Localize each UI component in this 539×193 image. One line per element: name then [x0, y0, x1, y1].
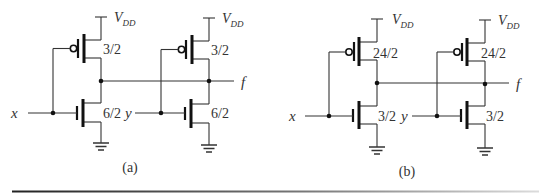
junction-dot [159, 111, 164, 116]
output-node-dot [375, 81, 380, 86]
input-y-label: y [123, 105, 132, 121]
input-x-label: x [10, 105, 18, 121]
nmos-size-label: 3/2 [486, 109, 504, 124]
nmos-transistor-icon [353, 101, 377, 129]
junction-dot [327, 114, 332, 119]
pmos-size-label: 3/2 [211, 43, 229, 58]
junction-dot [435, 114, 440, 119]
ground-icon [93, 143, 109, 150]
nmos-transistor-icon [185, 99, 209, 128]
vdd-supply-icon [95, 17, 107, 40]
vdd-supply-icon [203, 18, 215, 41]
panel-b: VDD 24/2 3/2 [288, 12, 522, 180]
pmos-size-label: 24/2 [481, 46, 506, 61]
nmos-size-label: 3/2 [378, 109, 396, 124]
nmos-transistor-icon [77, 99, 101, 127]
output-node-dot [207, 79, 212, 84]
cmos-circuit-figure: VDD 3/2 6/2 [0, 0, 539, 193]
inverter-y-b: VDD 24/2 3/2 [399, 13, 520, 155]
vdd-supply-icon [479, 20, 491, 43]
pmos-transistor-icon [437, 38, 485, 66]
input-y-label: y [399, 108, 408, 124]
ground-icon [477, 148, 493, 155]
nmos-size-label: 6/2 [103, 106, 121, 121]
pmos-transistor-icon [161, 35, 209, 64]
nmos-size-label: 6/2 [211, 106, 229, 121]
ground-icon [369, 147, 385, 154]
pmos-transistor-icon [329, 37, 377, 66]
output-node-dot [483, 82, 488, 87]
inverter-x-a: VDD 3/2 6/2 [10, 10, 136, 150]
nmos-transistor-icon [461, 101, 485, 129]
panel-a: VDD 3/2 6/2 [10, 10, 247, 176]
junction-dot [51, 111, 56, 116]
pmos-transistor-icon [53, 34, 101, 63]
vdd-supply-icon [371, 19, 383, 42]
pmos-size-label: 3/2 [103, 42, 121, 57]
vdd-label: VDD [114, 10, 136, 28]
output-f-label: f [516, 76, 522, 92]
ground-icon [201, 145, 217, 152]
panel-a-caption: (a) [122, 160, 138, 176]
output-node-dot [99, 79, 104, 84]
panel-b-caption: (b) [399, 164, 416, 180]
vdd-label: VDD [498, 13, 520, 31]
vdd-label: VDD [222, 11, 244, 29]
input-x-label: x [288, 108, 296, 124]
bottom-rule-divider [12, 191, 539, 193]
vdd-label: VDD [392, 12, 414, 30]
pmos-size-label: 24/2 [373, 46, 398, 61]
output-f-label: f [241, 74, 247, 90]
